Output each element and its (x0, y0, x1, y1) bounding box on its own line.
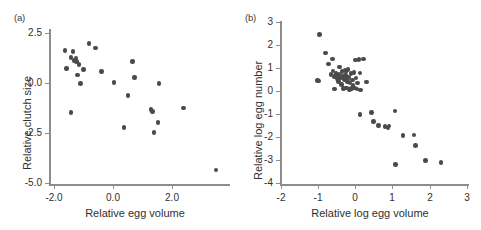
scatter-point (214, 168, 219, 173)
scatter-point (364, 80, 369, 85)
scatter-point (393, 109, 398, 114)
scatter-point (355, 81, 360, 86)
scatter-point (317, 79, 322, 84)
scatter-point (78, 81, 83, 86)
scatter-point (423, 158, 428, 163)
scatter-point (413, 143, 418, 148)
scatter-point (81, 67, 86, 72)
scatter-point (439, 160, 444, 165)
scatter-point (317, 32, 322, 37)
scatter-point (326, 62, 331, 67)
scatter-point (393, 162, 398, 167)
scatter-point (122, 125, 127, 130)
scatter-point (87, 41, 92, 46)
figure-container: (a) 2.5 0.0 -2.5 -5.0 -2.0 0.0 2.0 Relat… (0, 0, 481, 230)
scatter-point (376, 123, 381, 128)
scatter-point (358, 71, 363, 76)
scatter-point (152, 130, 157, 135)
scatter-point (64, 66, 69, 71)
scatter-point (361, 57, 366, 62)
scatter-point (126, 93, 131, 98)
scatter-point (358, 112, 363, 117)
panel-b: (b) 3 2 1 0 -1 -2 -3 -4 -2 -1 0 1 (240, 0, 481, 230)
scatter-point (69, 110, 74, 115)
scatter-point (332, 87, 337, 92)
scatter-point (354, 76, 359, 81)
scatter-point (352, 70, 357, 75)
scatter-point (150, 109, 155, 114)
scatter-point (71, 49, 76, 54)
scatter-point (181, 106, 186, 111)
panel-a-plot-area (0, 0, 240, 230)
panel-a: (a) 2.5 0.0 -2.5 -5.0 -2.0 0.0 2.0 Relat… (0, 0, 240, 230)
scatter-point (412, 133, 417, 138)
scatter-point (156, 120, 161, 125)
panel-b-plot-area (240, 0, 481, 230)
scatter-point (401, 133, 406, 138)
scatter-point (112, 80, 117, 85)
scatter-point (157, 81, 162, 86)
scatter-point (132, 75, 137, 80)
scatter-point (77, 62, 82, 67)
scatter-point (93, 46, 98, 51)
scatter-point (323, 51, 328, 56)
scatter-point (330, 57, 335, 62)
scatter-point (75, 73, 80, 78)
scatter-point (358, 88, 363, 93)
scatter-point (63, 48, 68, 53)
scatter-point (387, 124, 392, 129)
scatter-point (99, 69, 104, 74)
scatter-point (369, 110, 374, 115)
scatter-point (130, 59, 135, 64)
scatter-point (371, 119, 376, 124)
